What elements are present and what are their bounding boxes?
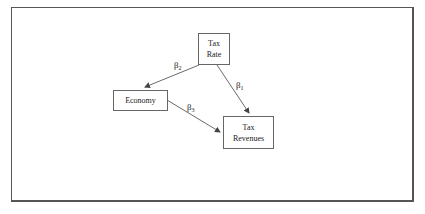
edge-label-beta-1: β1	[236, 80, 244, 93]
beta-3-subscript: 3	[192, 107, 195, 113]
node-economy-label: Economy	[125, 95, 156, 106]
node-tax-revenues-line-1: Tax	[243, 122, 255, 133]
node-tax-revenues: Tax Revenues	[223, 116, 274, 149]
node-tax-rate-line-2: Rate	[207, 49, 222, 60]
beta-1-subscript: 1	[241, 85, 244, 91]
beta-2-subscript: 2	[179, 65, 182, 71]
node-tax-rate: Tax Rate	[198, 33, 230, 65]
node-tax-revenues-line-2: Revenues	[233, 133, 264, 144]
edge-label-beta-3: β3	[187, 102, 195, 115]
node-tax-rate-line-1: Tax	[208, 38, 220, 49]
arrow-tax-rate-to-tax-revenues	[217, 65, 249, 113]
node-economy: Economy	[113, 90, 168, 111]
edge-label-beta-2: β2	[174, 60, 182, 73]
arrow-tax-rate-to-economy	[145, 65, 199, 87]
